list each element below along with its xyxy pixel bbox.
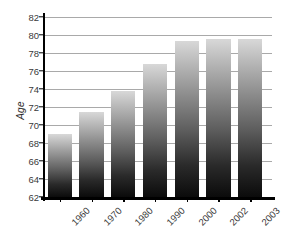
gridline: [44, 17, 272, 18]
bar[interactable]: [79, 112, 103, 198]
y-tick-label: 76: [28, 66, 39, 77]
x-tick-label: 2003: [259, 205, 282, 228]
y-tick-label: 64: [28, 174, 39, 185]
bar[interactable]: [238, 39, 262, 197]
x-tick-mark: [60, 197, 61, 202]
x-axis-line: [41, 197, 275, 200]
y-tick-label: 72: [28, 102, 39, 113]
bar[interactable]: [143, 64, 167, 197]
y-tick-label: 68: [28, 138, 39, 149]
bar[interactable]: [48, 134, 72, 197]
x-tick-label: 2000: [196, 205, 219, 228]
plot-area: Age 6264666870727476788082 1960197019801…: [44, 17, 266, 197]
bar[interactable]: [111, 91, 135, 197]
y-tick-label: 80: [28, 30, 39, 41]
x-tick-label: 1970: [101, 205, 124, 228]
gridline: [44, 35, 272, 36]
x-tick-label: 1990: [164, 205, 187, 228]
y-tick-label: 82: [28, 12, 39, 23]
x-tick-mark: [187, 197, 188, 202]
x-tick-label: 1960: [69, 205, 92, 228]
x-tick-mark: [92, 197, 93, 202]
x-tick-mark: [250, 197, 251, 202]
x-tick-label: 2002: [228, 205, 251, 228]
bar-chart: Age 6264666870727476788082 1960197019801…: [0, 0, 283, 251]
y-axis-line: [43, 13, 45, 201]
x-tick-mark: [155, 197, 156, 202]
y-tick-label: 70: [28, 120, 39, 131]
bar[interactable]: [206, 39, 230, 197]
x-tick-mark: [123, 197, 124, 202]
x-tick-mark: [218, 197, 219, 202]
y-tick-label: 78: [28, 48, 39, 59]
x-tick-label: 1980: [132, 205, 155, 228]
y-axis-title: Age: [15, 81, 26, 141]
y-tick-label: 74: [28, 84, 39, 95]
y-tick-label: 62: [28, 192, 39, 203]
bar[interactable]: [175, 41, 199, 197]
y-tick-label: 66: [28, 156, 39, 167]
